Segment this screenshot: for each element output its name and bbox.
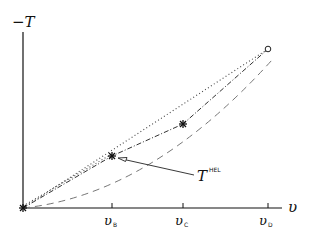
star-marker-c [179, 120, 187, 128]
tick-label-vd: υ D [259, 213, 273, 228]
svg-text:C: C [184, 221, 188, 228]
svg-text:HEL: HEL [209, 166, 221, 173]
star-marker-origin [19, 204, 27, 212]
svg-text:υ: υ [175, 213, 183, 228]
svg-text:υ: υ [104, 213, 112, 228]
dotted-segment-b [23, 154, 112, 206]
svg-text:υ: υ [259, 213, 267, 228]
diagram-canvas: −T υ υ B υ C υ D [0, 0, 314, 233]
tick-label-vc: υ C [175, 213, 188, 228]
x-axis-label: υ [288, 198, 297, 216]
annotation-label-thel: T HEL [197, 166, 221, 185]
star-marker-b [108, 152, 116, 160]
open-circle-d [265, 46, 271, 52]
svg-text:T: T [197, 167, 208, 185]
tick-label-vb: υ B [104, 213, 117, 228]
y-axis-label: −T [12, 13, 36, 31]
svg-text:D: D [268, 221, 273, 228]
svg-text:B: B [113, 221, 117, 228]
annotation-arrow [118, 158, 194, 176]
